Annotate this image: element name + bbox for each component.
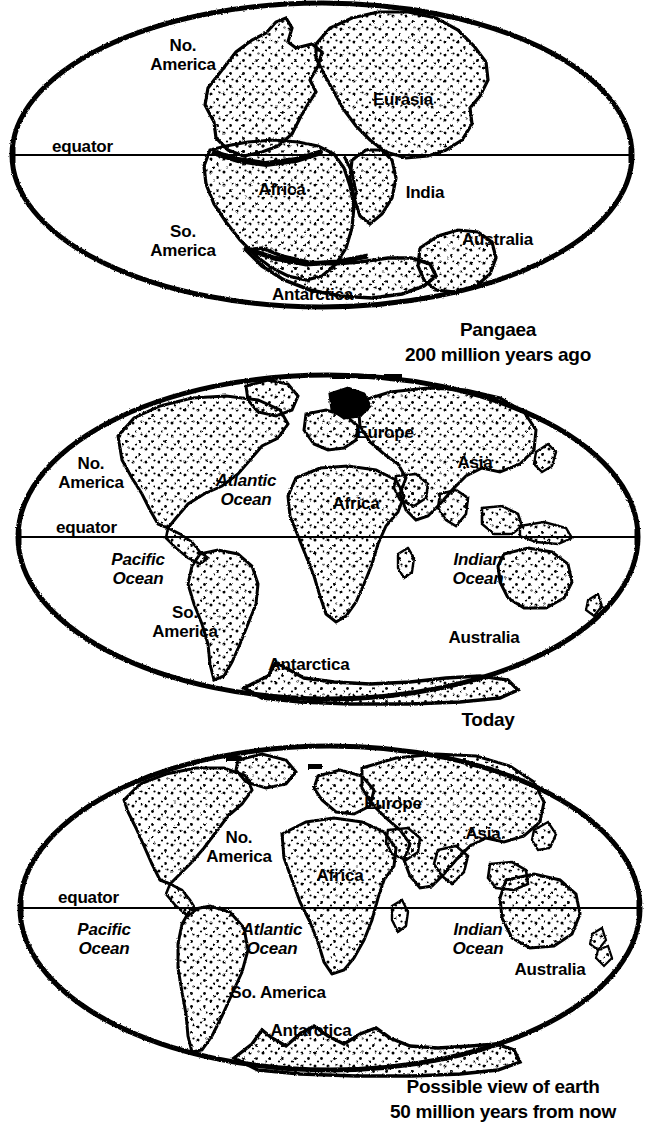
label-so-america: So. America <box>128 222 238 260</box>
label-antarctica: Antarctica <box>246 1021 376 1040</box>
label-europe: Europe <box>330 423 440 442</box>
panel-pangaea: No. America Eurasia equator Africa India… <box>0 0 659 380</box>
caption-today: Today <box>398 708 578 731</box>
label-africa: Africa <box>290 866 390 885</box>
label-pacific-ocean: Pacific Ocean <box>54 920 154 958</box>
panel-future: Europe No. America Asia Africa equator P… <box>0 738 659 1140</box>
label-australia: Australia <box>440 230 555 249</box>
label-asia: Asia <box>430 453 520 472</box>
panel-today: Europe Asia No. America Atlantic Ocean A… <box>0 368 659 740</box>
label-australia: Australia <box>490 960 610 979</box>
label-india: India <box>380 183 470 202</box>
equator-label: equator <box>52 137 152 156</box>
label-no-america: No. America <box>128 36 238 74</box>
label-eurasia: Eurasia <box>348 90 458 109</box>
label-indian-ocean: Indian Ocean <box>428 920 528 958</box>
caption-pangaea-line2: 200 million years ago <box>358 343 638 366</box>
caption-future-line2: 50 million years from now <box>358 1100 648 1123</box>
label-australia: Australia <box>424 628 544 647</box>
continental-drift-figure: No. America Eurasia equator Africa India… <box>0 0 659 1140</box>
equator-label: equator <box>58 888 158 907</box>
label-antarctica: Antarctica <box>250 285 375 304</box>
caption-future-line1: Possible view of earth <box>358 1075 648 1098</box>
label-so-america: So. America <box>198 983 358 1002</box>
caption-pangaea-line1: Pangaea <box>358 318 638 341</box>
label-so-america: So. America <box>130 603 240 641</box>
label-atlantic-ocean: Atlantic Ocean <box>222 920 322 958</box>
label-no-america: No. America <box>184 828 294 866</box>
label-no-america: No. America <box>36 454 146 492</box>
equator-label: equator <box>56 518 156 537</box>
label-pacific-ocean: Pacific Ocean <box>88 550 188 588</box>
label-africa: Africa <box>306 494 406 513</box>
label-europe: Europe <box>338 794 448 813</box>
label-atlantic-ocean: Atlantic Ocean <box>196 471 296 509</box>
label-asia: Asia <box>438 824 528 843</box>
label-indian-ocean: Indian Ocean <box>428 550 528 588</box>
label-antarctica: Antarctica <box>244 655 374 674</box>
label-africa: Africa <box>232 180 332 199</box>
